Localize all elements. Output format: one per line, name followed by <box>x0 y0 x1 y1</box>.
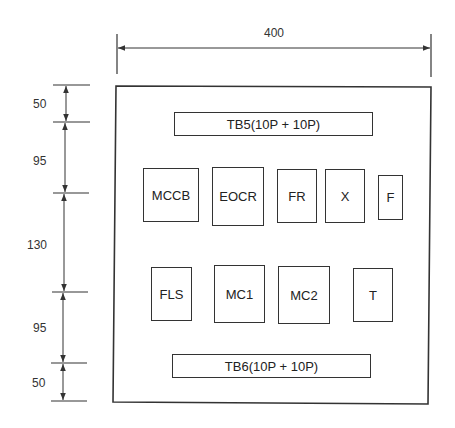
terminal-block-tb5-label: TB5(10P + 10P) <box>227 117 320 132</box>
component-fr: FR <box>277 169 317 223</box>
terminal-block-tb5: TB5(10P + 10P) <box>174 112 373 136</box>
component-x: X <box>325 169 365 223</box>
component-eocr: EOCR <box>212 167 264 226</box>
component-t: T <box>353 268 393 322</box>
component-label: MC1 <box>226 287 253 302</box>
terminal-block-tb6-label: TB6(10P + 10P) <box>225 359 318 374</box>
component-label: FR <box>288 189 305 204</box>
dimension-label-row1-gap: 95 <box>33 155 46 167</box>
component-f: F <box>378 175 403 220</box>
component-fls: FLS <box>151 267 192 321</box>
component-label: EOCR <box>219 189 257 204</box>
dimension-label-row2-gap: 95 <box>33 322 46 334</box>
component-label: X <box>341 189 350 204</box>
dimension-label-bottom-margin: 50 <box>32 377 45 389</box>
component-label: MCCB <box>152 188 190 203</box>
dimension-label-top-margin: 50 <box>33 98 46 110</box>
component-label: MC2 <box>290 288 317 303</box>
width-dimension-label: 400 <box>264 27 284 39</box>
component-label: T <box>369 288 377 303</box>
component-label: F <box>387 190 395 205</box>
dimension-label-middle-gap: 130 <box>27 239 47 251</box>
component-mc1: MC1 <box>214 265 265 323</box>
component-mccb: MCCB <box>143 168 199 222</box>
terminal-block-tb6: TB6(10P + 10P) <box>172 354 371 378</box>
component-mc2: MC2 <box>278 266 330 324</box>
component-label: FLS <box>160 287 184 302</box>
